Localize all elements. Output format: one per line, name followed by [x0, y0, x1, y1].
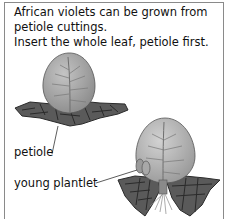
label-petiole: petiole: [14, 145, 53, 159]
leaf-cutting-illustration: [15, 53, 128, 126]
rooted-leaf-illustration: [118, 118, 220, 216]
label-young-plantlet: young plantlet: [14, 176, 98, 190]
